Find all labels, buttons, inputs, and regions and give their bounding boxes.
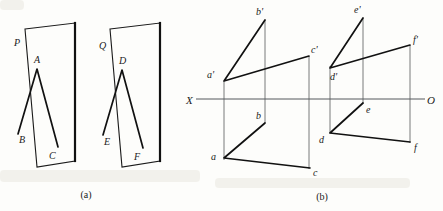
triangle-abc-top xyxy=(224,123,310,168)
vertex-label-e-prime: e' xyxy=(354,4,361,15)
caption-b: (b) xyxy=(316,191,328,203)
plane-P-outline xyxy=(25,23,75,167)
vertex-label-a: a xyxy=(211,151,216,162)
triangle-def-front xyxy=(330,18,410,68)
vertex-label-A: A xyxy=(33,54,41,65)
vertex-label-f: f xyxy=(414,142,418,153)
vertex-label-C: C xyxy=(49,150,56,161)
plane-Q-outline xyxy=(110,23,160,167)
vertex-label-B: B xyxy=(19,134,25,145)
axis-label-O: O xyxy=(427,94,435,106)
vertex-label-e: e xyxy=(366,104,371,115)
top-view-def: d e f xyxy=(319,103,418,153)
front-view-def: d' e' f' xyxy=(330,4,419,82)
vertex-label-a-prime: a' xyxy=(207,69,215,80)
plane-P: P A B C xyxy=(13,23,75,167)
vertex-label-D: D xyxy=(118,55,127,66)
figure-root: P A B C Q D E F (a) xyxy=(0,0,443,211)
plane-label-P: P xyxy=(13,37,20,48)
figure-canvas: P A B C Q D E F (a) xyxy=(0,0,443,211)
vertex-label-b: b xyxy=(256,110,261,121)
vertex-label-b-prime: b' xyxy=(256,6,264,17)
top-view-abc: a b c xyxy=(211,110,318,178)
plane-Q: Q D E F xyxy=(99,23,160,167)
vertex-label-f-prime: f' xyxy=(413,34,419,45)
vertex-label-c-prime: c' xyxy=(311,44,318,55)
part-b-group: X O a' b' c' a b c d' e' f' xyxy=(185,4,435,203)
vertex-label-c: c xyxy=(313,167,318,178)
vertex-label-E: E xyxy=(103,136,110,147)
axis-label-X: X xyxy=(185,94,194,106)
vertex-label-d-prime: d' xyxy=(330,71,338,82)
vertex-label-F: F xyxy=(133,151,141,162)
triangle-abc-front xyxy=(224,20,309,81)
vertex-label-d: d xyxy=(319,134,325,145)
projectors-def xyxy=(330,18,410,143)
front-view-abc: a' b' c' xyxy=(207,6,318,81)
plane-label-Q: Q xyxy=(99,40,107,51)
paper-smudges xyxy=(0,0,410,188)
caption-a: (a) xyxy=(80,189,91,201)
